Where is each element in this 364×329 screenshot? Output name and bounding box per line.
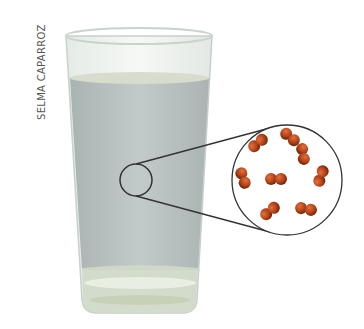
water: [70, 78, 209, 270]
glass-illustration: [0, 0, 364, 329]
